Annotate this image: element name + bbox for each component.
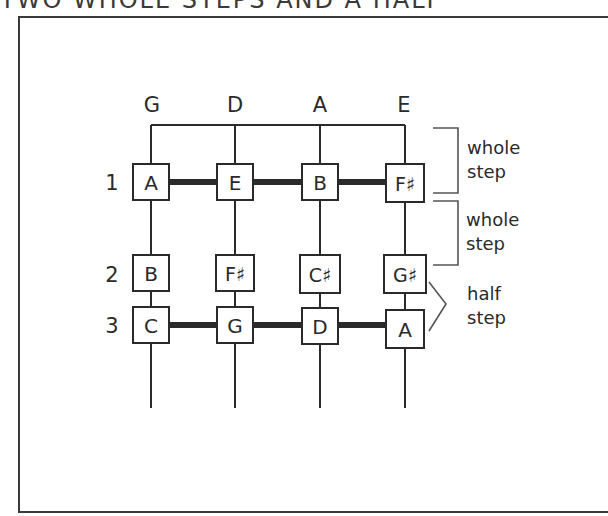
note-box: C [133, 307, 169, 343]
note-box: F♯ [216, 255, 254, 291]
half-step-angle-bracket [429, 282, 446, 331]
interval-label: half [467, 283, 501, 304]
note-box: F♯ [386, 164, 424, 202]
svg-text:F♯: F♯ [395, 173, 415, 195]
svg-text:B: B [144, 262, 158, 286]
svg-text:A: A [398, 318, 412, 342]
note-box: E [217, 164, 253, 200]
svg-text:F♯: F♯ [225, 263, 245, 285]
fret-number-3: 3 [105, 314, 118, 338]
fret-number-1: 1 [105, 171, 118, 195]
note-box: D [302, 308, 338, 344]
interval-label: step [467, 161, 506, 182]
note-box: G [217, 307, 253, 343]
note-box: B [302, 164, 338, 200]
note-box: C♯ [300, 255, 340, 293]
interval-label: step [466, 233, 505, 254]
string-label-g: G [144, 93, 160, 117]
svg-text:E: E [229, 171, 242, 195]
note-box: G♯ [384, 255, 426, 293]
string-label-e: E [397, 93, 410, 117]
interval-label: step [467, 307, 506, 328]
svg-text:B: B [313, 171, 327, 195]
interval-label: whole [467, 137, 520, 158]
note-box: A [386, 310, 424, 348]
svg-text:D: D [312, 315, 327, 339]
svg-text:G: G [227, 314, 243, 338]
note-box: A [133, 164, 169, 200]
whole-step-bracket-2 [433, 201, 458, 265]
svg-text:C♯: C♯ [309, 264, 331, 286]
string-label-d: D [227, 93, 243, 117]
fret-number-2: 2 [105, 263, 118, 287]
note-box: B [133, 255, 169, 291]
whole-step-bracket-1 [433, 128, 458, 193]
svg-text:G♯: G♯ [393, 264, 417, 286]
string-label-a: A [313, 93, 328, 117]
interval-label: whole [466, 209, 519, 230]
svg-text:C: C [144, 314, 158, 338]
svg-text:A: A [144, 171, 158, 195]
